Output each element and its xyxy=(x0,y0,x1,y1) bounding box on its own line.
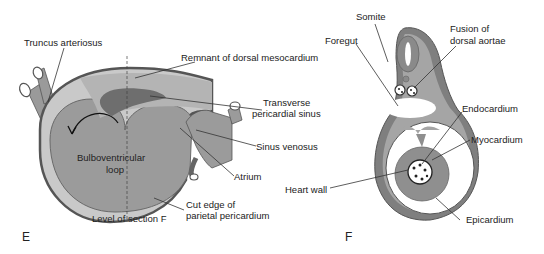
label-sinus-venosus: Sinus venosus xyxy=(256,141,318,152)
embryo-heart-diagram: Truncus arteriosus Remnant of dorsal mes… xyxy=(0,0,544,254)
label-fusion-line2: dorsal aortae xyxy=(450,35,505,46)
label-somite: Somite xyxy=(356,11,386,22)
label-foregut: Foregut xyxy=(325,35,358,46)
panel-e-illustration xyxy=(18,56,242,222)
label-epicardium: Epicardium xyxy=(466,214,514,225)
label-cut-edge-line2: parietal pericardium xyxy=(186,210,270,221)
label-transverse-sinus-line2: pericardial sinus xyxy=(252,108,321,119)
label-truncus-arteriosus: Truncus arteriosus xyxy=(24,37,103,48)
label-transverse-sinus-line1: Transverse xyxy=(263,97,310,108)
label-heart-wall: Heart wall xyxy=(285,184,327,195)
panel-f-illustration xyxy=(375,28,479,220)
panel-letter-e: E xyxy=(22,230,30,244)
label-cut-edge-line1: Cut edge of xyxy=(186,199,235,210)
label-fusion-line1: Fusion of xyxy=(450,23,489,34)
label-myocardium: Myocardium xyxy=(471,134,523,145)
label-atrium: Atrium xyxy=(234,171,262,182)
label-remnant-dorsal-mesocardium: Remnant of dorsal mesocardium xyxy=(181,52,318,63)
panel-letter-f: F xyxy=(345,230,352,244)
label-endocardium: Endocardium xyxy=(462,103,518,114)
label-bulboventricular-line1: Bulboventricular xyxy=(77,152,145,163)
label-bulboventricular-line2: loop xyxy=(106,164,124,175)
label-level-of-section: Level of section F xyxy=(92,213,167,224)
